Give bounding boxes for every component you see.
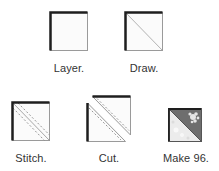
step-stitch <box>11 101 51 142</box>
layered-square-icon <box>49 11 89 52</box>
half-square-triangle-icon <box>168 108 202 142</box>
step-label-layer: Layer. <box>44 62 94 75</box>
step-make-96 <box>168 108 202 142</box>
square-diagonal-line-icon <box>124 11 164 52</box>
step-label-make-96: Make 96. <box>159 152 213 165</box>
step-layer <box>49 11 89 52</box>
step-label-draw: Draw. <box>119 62 169 75</box>
step-label-stitch: Stitch. <box>6 152 56 165</box>
step-cut <box>86 95 132 143</box>
step-label-cut: Cut. <box>84 152 134 165</box>
cut-triangles-icon <box>86 95 132 143</box>
square-stitch-lines-icon <box>11 101 51 142</box>
step-draw <box>124 11 164 52</box>
